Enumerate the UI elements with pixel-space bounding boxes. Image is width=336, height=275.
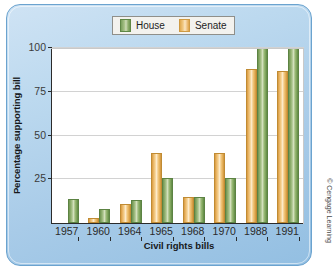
bar-group (52, 48, 84, 223)
bar-house (131, 200, 142, 223)
bar-house (194, 197, 205, 223)
x-axis-tick-label: 1988 (240, 225, 272, 237)
bar-house (99, 209, 110, 223)
bar-group (147, 48, 179, 223)
y-axis-tick-label: 75 (34, 85, 46, 97)
legend-label-senate: Senate (195, 21, 227, 31)
legend-label-house: House (136, 21, 165, 31)
bar-senate (246, 69, 257, 223)
x-axis-tick-label: 1964 (114, 225, 146, 237)
x-axis-tick-label: 1991 (272, 225, 304, 237)
bar-group (178, 48, 210, 223)
bar-house (68, 199, 79, 224)
x-axis-tick-label: 1968 (177, 225, 209, 237)
bar-house (225, 178, 236, 224)
bar-house (162, 178, 173, 224)
x-axis-title: Civil rights bills (50, 240, 308, 251)
y-axis-tick-label: 25 (34, 172, 46, 184)
x-axis-tick-label: 1965 (146, 225, 178, 237)
bar-house (288, 48, 299, 223)
x-axis-tick-labels: 19571960196419651968197019881991 (51, 225, 303, 237)
bar-group (115, 48, 147, 223)
bar-senate (183, 197, 194, 223)
copyright-credit-text: © Cengage Learning (326, 178, 333, 243)
x-axis-tick-label: 1957 (51, 225, 83, 237)
bar-group (84, 48, 116, 223)
plot-area: 255075100 (51, 48, 304, 224)
bar-group (210, 48, 242, 223)
bar-group (241, 48, 273, 223)
bar-group (273, 48, 305, 223)
bar-senate (214, 153, 225, 223)
y-axis-tick-label: 50 (34, 129, 46, 141)
chart-figure: House Senate Percentage supporting bill … (0, 0, 336, 275)
x-axis-tick-label: 1960 (83, 225, 115, 237)
bar-senate (277, 71, 288, 223)
legend-swatch-house-icon (120, 19, 131, 32)
bar-senate (151, 153, 162, 223)
y-axis-title: Percentage supporting bill (9, 48, 25, 223)
x-axis-tick-label: 1970 (209, 225, 241, 237)
y-axis-title-text: Percentage supporting bill (12, 77, 23, 194)
legend-swatch-senate-icon (179, 19, 190, 32)
bar-groups (52, 48, 304, 223)
y-axis-tick-label: 100 (28, 41, 46, 53)
legend-item-house: House (120, 19, 165, 32)
legend-item-senate: Senate (179, 19, 227, 32)
bar-senate (120, 204, 131, 223)
copyright-credit: © Cengage Learning (323, 160, 335, 260)
bar-senate (88, 218, 99, 223)
chart-legend: House Senate (112, 16, 235, 35)
bar-house (257, 48, 268, 223)
